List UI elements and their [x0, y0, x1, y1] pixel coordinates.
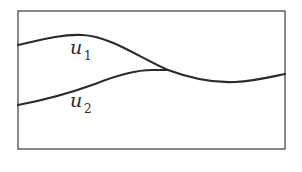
label-u2-subscript: 2 — [84, 102, 92, 116]
curve-u2 — [18, 70, 168, 105]
label-u1: u 1 — [70, 36, 92, 63]
curve-u1 — [18, 35, 285, 82]
label-u2-main: u — [70, 89, 82, 111]
label-u1-subscript: 1 — [84, 49, 92, 63]
label-u1-main: u — [70, 36, 82, 58]
diagram-frame — [18, 11, 285, 149]
label-u2: u 2 — [70, 89, 92, 116]
diagram-canvas: u 1 u 2 — [0, 0, 302, 172]
